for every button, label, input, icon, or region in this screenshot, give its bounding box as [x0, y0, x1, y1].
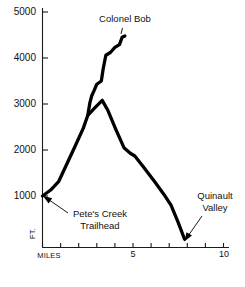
annotation-quinault-valley: Quinault Valley — [186, 190, 244, 213]
annotation-colonel-bob: Colonel Bob — [88, 13, 162, 25]
y-axis-unit-label: FT. — [27, 228, 38, 239]
y-tick-label-3000: 3000 — [2, 98, 36, 109]
y-tick-label-2000: 2000 — [2, 144, 36, 155]
annotation-quinault-line1: Quinault — [197, 190, 232, 201]
annotation-quinault-line2: Valley — [202, 202, 227, 213]
annotation-petes-creek-line2: Trailhead — [80, 220, 119, 231]
x-tick-label-5: 5 — [123, 249, 143, 260]
y-axis-ticks — [43, 12, 49, 196]
elevation-profile-chart: 5000 4000 3000 2000 1000 FT. MILES 5 10 … — [0, 0, 245, 287]
x-axis-origin-label: MILES — [29, 250, 69, 261]
colonel-bob-tick — [121, 28, 123, 34]
y-tick-label-4000: 4000 — [2, 52, 36, 63]
y-tick-label-1000: 1000 — [2, 190, 36, 201]
chart-svg — [0, 0, 245, 287]
x-axis-ticks — [43, 243, 224, 248]
quinault-valley-leader — [184, 216, 202, 242]
y-tick-label-5000: 5000 — [2, 6, 36, 17]
x-tick-label-10: 10 — [213, 249, 235, 260]
annotation-petes-creek: Pete's Creek Trailhead — [62, 208, 138, 231]
trail-line-colonel-bob — [88, 36, 125, 116]
annotation-petes-creek-line1: Pete's Creek — [73, 208, 127, 219]
